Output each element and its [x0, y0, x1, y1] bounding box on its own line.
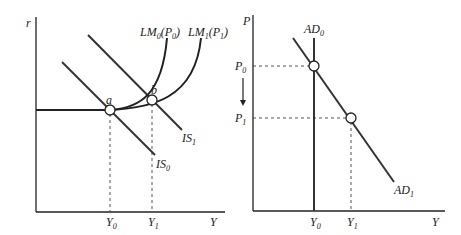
y-axis-label-left: Y	[210, 215, 218, 229]
lm0-label: LM0(P0)	[139, 25, 180, 41]
lm0-curve	[110, 38, 167, 110]
ad1-label: AD1	[393, 183, 414, 199]
down-arrow-icon	[240, 78, 246, 106]
p-axis-label: P	[242, 14, 251, 28]
r-axis-label: r	[26, 16, 31, 30]
point-b-label: b	[151, 83, 157, 97]
ad1-curve	[293, 38, 394, 182]
point-a-label: a	[106, 93, 112, 107]
p0-tick-label: P0	[234, 59, 246, 75]
ad-panel: P Y AD0 AD1 P0 P1 Y0 Y1	[234, 14, 445, 231]
y-axis-label-right: Y	[432, 215, 440, 229]
is1-curve	[88, 35, 182, 130]
is1-label: IS1	[181, 131, 196, 147]
y1-tick-label-right: Y1	[347, 215, 358, 231]
is-lm-ad-diagram: r Y a b LM0(P0) LM1(P1) IS1 IS0 Y0 Y1	[0, 0, 461, 235]
is-lm-panel: r Y a b LM0(P0) LM1(P1) IS1 IS0 Y0 Y1	[26, 16, 228, 231]
lm1-label: LM1(P1)	[187, 25, 228, 41]
point-p1	[346, 113, 356, 123]
y1-tick-label: Y1	[148, 215, 159, 231]
y0-tick-label-right: Y0	[310, 215, 321, 231]
point-p0	[309, 61, 319, 71]
ad0-label: AD0	[303, 22, 324, 38]
is0-label: IS0	[155, 157, 170, 173]
y0-tick-label: Y0	[106, 215, 117, 231]
p1-tick-label: P1	[234, 111, 246, 127]
